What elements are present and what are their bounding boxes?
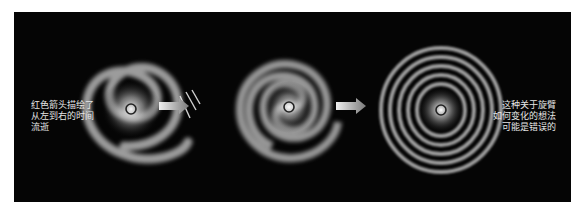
caption-right: 这种关于旋臂 如何变化的想法 可能是错误的	[493, 100, 556, 133]
right-arrow-icon	[336, 98, 366, 114]
figure-panel: 红色箭头描绘了 从左到右的时间 流逝 这种关于旋臂 如何变化的想法 可能是错误的	[14, 12, 571, 202]
spiral-galaxy-icon	[224, 42, 354, 172]
right-arrow-icon	[159, 98, 189, 114]
ring-galaxy-icon	[376, 42, 506, 177]
arrow-stage-1-to-2	[159, 98, 189, 118]
galaxy-stage-2	[224, 42, 354, 172]
caption-left: 红色箭头描绘了 从左到右的时间 流逝	[31, 100, 94, 133]
galaxy-stage-3	[376, 42, 506, 177]
arrow-stage-2-to-3	[336, 98, 366, 118]
